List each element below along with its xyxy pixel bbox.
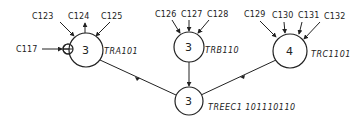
edge-c123 <box>60 22 74 36</box>
node-count-treec1: 3 <box>185 95 192 108</box>
edge-c131 <box>299 22 302 34</box>
input-label-c127: C127 <box>181 10 203 19</box>
edge-c126 <box>172 20 180 33</box>
tree-diagram: C123 C124 C125 C117 3 TRA101 C126 C127 C… <box>0 0 360 127</box>
input-label-c131: C131 <box>298 11 320 20</box>
edge-c130 <box>284 22 285 33</box>
edge-trc1101-to-treec1 <box>201 60 276 95</box>
node-tra101: C123 C124 C125 C117 3 TRA101 <box>16 12 138 67</box>
node-treec1: 3 TREEC1 101110110 <box>175 87 296 115</box>
edge-tra101-to-treec1 <box>100 60 176 95</box>
node-trc1101: C129 C130 C131 C132 4 TRC1101 <box>244 10 351 68</box>
edge-c132 <box>304 22 320 39</box>
node-count-tra101: 3 <box>82 44 89 57</box>
edge-c125 <box>96 22 110 36</box>
node-name-treec1: TREEC1 101110110 <box>208 103 296 112</box>
node-name-tra101: TRA101 <box>104 47 138 56</box>
input-label-c132: C132 <box>324 12 346 21</box>
node-count-trc1101: 4 <box>286 45 293 58</box>
input-label-c126: C126 <box>155 10 177 19</box>
node-trb110: C126 C127 C128 3 TRB110 <box>155 10 239 62</box>
input-label-c129: C129 <box>244 10 266 19</box>
edge-c128 <box>198 20 209 33</box>
node-name-trb110: TRB110 <box>205 46 239 55</box>
input-label-c128: C128 <box>207 10 229 19</box>
input-label-c124: C124 <box>68 12 90 21</box>
input-label-c130: C130 <box>272 11 294 20</box>
input-label-c123: C123 <box>32 12 54 21</box>
input-label-c117: C117 <box>16 45 38 54</box>
node-count-trb110: 3 <box>185 41 192 54</box>
node-name-trc1101: TRC1101 <box>311 50 351 59</box>
input-label-c125: C125 <box>101 12 123 21</box>
edge-c129 <box>260 21 276 37</box>
